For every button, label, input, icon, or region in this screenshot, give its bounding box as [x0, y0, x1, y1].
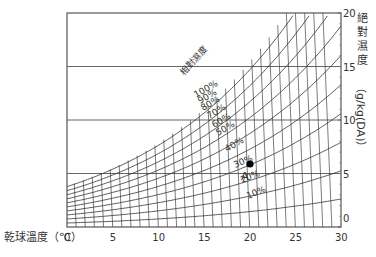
dry-bulb-line: [243, 70, 250, 227]
y-tick-label: 0: [343, 213, 349, 224]
y-label-char: 濕: [357, 40, 368, 53]
y-label-char: 對: [357, 25, 368, 39]
chart-grid: [67, 13, 341, 227]
x-axis-label: 乾球溫度（℃）: [4, 230, 82, 244]
y-tick-label: 15: [343, 62, 356, 73]
dry-bulb-line: [252, 60, 259, 227]
dry-bulb-line: [182, 127, 186, 227]
x-tick-label: 15: [198, 232, 211, 243]
x-axis-ticks: 051015202530: [64, 232, 348, 243]
psychrometric-chart: 051015202530 05101520 乾球溫度（℃） 絕對濕度（g/kg(…: [0, 0, 376, 257]
rh-label-10: 10%: [245, 184, 268, 201]
dry-bulb-line: [260, 49, 267, 227]
point-a-marker: [246, 160, 253, 167]
x-tick-label: 10: [152, 232, 165, 243]
dry-bulb-line: [173, 134, 177, 227]
dry-bulb-line: [269, 37, 277, 227]
x-tick-label: 20: [244, 232, 257, 243]
rh-family-label: 相對濕度: [177, 43, 209, 77]
y-label-char: 度: [357, 53, 368, 67]
point-a-label: A: [241, 170, 249, 183]
dry-bulb-line: [278, 25, 286, 227]
y-axis-label: 絕對濕度（g/kg(DA)）: [354, 12, 368, 152]
y-tick-label: 10: [343, 115, 356, 126]
rh-curve-60: [67, 56, 341, 203]
x-tick-label: 25: [289, 232, 302, 243]
y-tick-label: 20: [343, 8, 356, 19]
y-label-char: 絕: [357, 12, 368, 25]
rh-curve-20: [67, 171, 341, 219]
y-tick-label: 5: [343, 169, 349, 180]
rh-curve-30: [67, 142, 341, 215]
dry-bulb-line: [234, 79, 240, 227]
x-tick-label: 30: [335, 232, 348, 243]
y-label-units: （g/kg(DA)）: [354, 82, 367, 152]
dry-bulb-line: [164, 140, 168, 227]
x-tick-label: 5: [110, 232, 116, 243]
dry-bulb-line: [199, 113, 204, 227]
rh-label-40: 40%: [223, 135, 246, 154]
